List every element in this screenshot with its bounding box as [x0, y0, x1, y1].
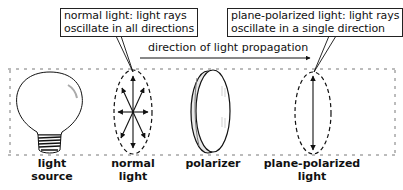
light-bulb-icon: [17, 72, 83, 153]
callout-line: normal light: light rays: [64, 10, 194, 23]
plane-polarized-callout: plane-polarized light: light rays oscill…: [227, 8, 403, 37]
normal-light-icon: [114, 70, 152, 154]
label-polarizer: polarizer: [180, 158, 246, 171]
propagation-label: direction of light propagation: [148, 41, 308, 54]
callout-line: oscillate in all directions: [64, 23, 194, 36]
plane-polarized-light-icon: [295, 72, 331, 154]
label-plane-polarized-light: plane-polarized light: [262, 158, 362, 183]
polarizer-icon: [191, 70, 230, 153]
callout-line: plane-polarized light: light rays: [231, 10, 399, 23]
label-light-source: light source: [22, 158, 82, 183]
label-normal-light: normal light: [103, 158, 163, 183]
normal-light-callout: normal light: light rays oscillate in al…: [60, 8, 198, 37]
callout-line: oscillate in a single direction: [231, 23, 399, 36]
